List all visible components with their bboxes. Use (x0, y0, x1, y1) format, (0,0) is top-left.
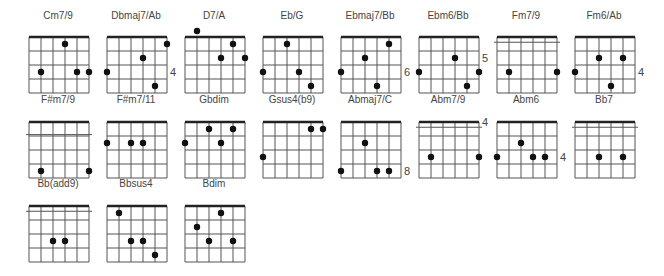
finger-dot (218, 210, 224, 216)
fretboard-grid (175, 172, 253, 272)
chord-diagram: Gbdim (175, 88, 253, 178)
finger-dot (218, 140, 224, 146)
finger-dot (596, 55, 602, 61)
fretboard-grid: 8 (331, 88, 409, 188)
finger-dot (338, 168, 344, 174)
finger-dot (74, 69, 80, 75)
finger-dot (506, 69, 512, 75)
chord-diagram: Cm7/9 (19, 0, 97, 90)
finger-dot (476, 69, 482, 75)
finger-dot (284, 41, 290, 47)
finger-dot (620, 55, 626, 61)
finger-dot (416, 69, 422, 75)
chord-diagram: Bbsus4 (97, 172, 175, 262)
finger-dot (320, 126, 326, 132)
finger-dot (182, 140, 188, 146)
chord-diagram: Abm7/94 (409, 88, 487, 178)
finger-dot (572, 69, 578, 75)
fretboard-grid (253, 0, 331, 100)
chord-diagram: Eb/G (253, 0, 331, 90)
finger-dot (38, 69, 44, 75)
fretboard-grid: 4 (97, 0, 175, 100)
chord-diagram: Abm64 (487, 88, 565, 178)
finger-dot (62, 238, 68, 244)
finger-dot (386, 168, 392, 174)
finger-dot (86, 69, 92, 75)
fretboard-grid (253, 88, 331, 188)
fretboard-grid (19, 172, 97, 272)
chord-diagram: F#m7/11 (97, 88, 175, 178)
finger-dot (116, 210, 122, 216)
chord-diagram: Abmaj7/C8 (331, 88, 409, 178)
finger-dot (260, 69, 266, 75)
finger-dot (62, 41, 68, 47)
fretboard-grid (565, 88, 643, 188)
finger-dot (620, 154, 626, 160)
finger-dot (308, 126, 314, 132)
finger-dot (206, 126, 212, 132)
finger-dot (260, 154, 266, 160)
finger-dot (140, 238, 146, 244)
finger-dot (206, 238, 212, 244)
chord-diagram: Fm6/Ab4 (565, 0, 643, 90)
finger-dot (164, 41, 170, 47)
finger-dot (362, 140, 368, 146)
fretboard-grid (97, 172, 175, 272)
finger-dot (242, 55, 248, 61)
finger-dot (128, 238, 134, 244)
fretboard-grid (487, 0, 565, 100)
fret-position-label: 4 (638, 66, 644, 78)
finger-dot (140, 140, 146, 146)
finger-dot (452, 55, 458, 61)
finger-dot (554, 69, 560, 75)
chord-diagram: Bb7 (565, 88, 643, 178)
fretboard-grid: 4 (409, 88, 487, 188)
fretboard-grid: 4 (487, 88, 565, 188)
finger-dot (428, 154, 434, 160)
chord-diagram: Bb(add9) (19, 172, 97, 262)
finger-dot (140, 55, 146, 61)
finger-dot (494, 154, 500, 160)
finger-dot (128, 140, 134, 146)
finger-dot (50, 238, 56, 244)
finger-dot (338, 69, 344, 75)
fretboard-grid (19, 0, 97, 100)
chord-diagram: Gsus4(b9) (253, 88, 331, 178)
finger-dot (596, 154, 602, 160)
fretboard-grid: 5 (409, 0, 487, 100)
finger-dot (104, 69, 110, 75)
finger-dot (386, 41, 392, 47)
chord-diagram: D7/A (175, 0, 253, 90)
chord-diagram: Fm7/9 (487, 0, 565, 90)
chord-diagram: Dbmaj7/Ab4 (97, 0, 175, 90)
finger-dot (230, 126, 236, 132)
finger-dot (230, 238, 236, 244)
finger-dot (152, 252, 158, 258)
finger-dot (194, 224, 200, 230)
chord-diagram: Bdim (175, 172, 253, 262)
chord-diagram: Ebm6/Bb5 (409, 0, 487, 90)
fretboard-grid (175, 0, 253, 100)
chord-diagram: Ebmaj7/Bb6 (331, 0, 409, 90)
finger-dot (374, 168, 380, 174)
finger-dot (530, 154, 536, 160)
fretboard-grid: 4 (565, 0, 643, 100)
finger-dot (194, 28, 200, 34)
finger-dot (230, 41, 236, 47)
finger-dot (362, 55, 368, 61)
finger-dot (218, 55, 224, 61)
finger-dot (296, 69, 302, 75)
finger-dot (104, 140, 110, 146)
chord-diagram: F#m7/9 (19, 88, 97, 178)
finger-dot (542, 154, 548, 160)
finger-dot (518, 140, 524, 146)
finger-dot (476, 154, 482, 160)
fretboard-grid: 6 (331, 0, 409, 100)
